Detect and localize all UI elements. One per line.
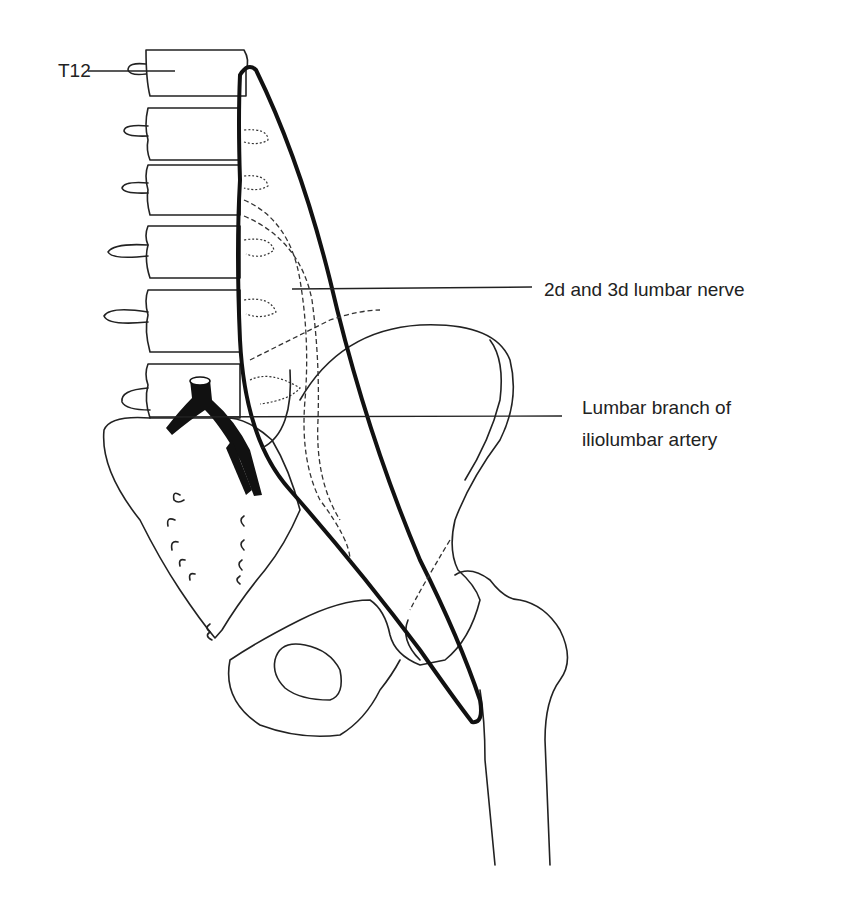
obturator-foramen [274,644,341,700]
psoas-muscle [238,67,481,722]
vertebrae [104,50,248,418]
femur [455,571,568,865]
iliolumbar-artery [166,370,290,496]
label-artery-line1: Lumbar branch of [582,394,731,422]
label-t12: T12 [58,57,91,85]
leader-nerve [292,287,532,289]
sacral-foramina [168,493,244,640]
label-lumbar-nerve: 2d and 3d lumbar nerve [544,276,745,304]
anatomy-drawing [0,0,859,914]
sacrum [104,418,300,639]
leader-artery [150,416,562,417]
label-artery-line2: iliolumbar artery [582,426,717,454]
lumbar-nerves [244,130,450,610]
